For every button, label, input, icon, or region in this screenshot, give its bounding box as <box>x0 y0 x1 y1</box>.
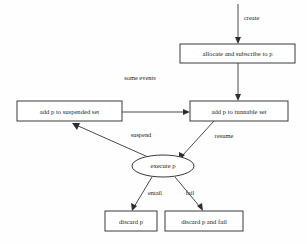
node-allocate-and-subscribe[interactable]: allocate and subscribe to p <box>180 44 295 63</box>
node-execute-p[interactable]: execute p <box>132 155 194 177</box>
node-add-p-to-runnable-set[interactable]: add p to runnable set <box>190 101 288 121</box>
edge-resume <box>179 121 214 160</box>
node-discard-p-label: discard p <box>119 218 144 225</box>
edge-label-suspend: suspend <box>131 131 152 138</box>
node-discard-p-and-fail-label: discard p and fail <box>181 218 227 225</box>
edge-label-entail: entail <box>148 189 162 196</box>
edge-label-resume: resume <box>215 132 234 139</box>
edge-label-fail: fail <box>186 189 195 196</box>
node-add-p-to-runnable-set-label: add p to runnable set <box>212 108 267 115</box>
edge-suspend-line <box>76 125 148 157</box>
node-discard-p-and-fail[interactable]: discard p and fail <box>165 211 243 231</box>
node-add-p-to-suspended-set[interactable]: add p to suspended set <box>17 101 122 121</box>
edge-create-arrowhead <box>235 37 241 44</box>
node-discard-p[interactable]: discard p <box>105 211 157 231</box>
edge-resume-line <box>182 121 214 156</box>
edge-allocate-to-runnable <box>235 63 241 101</box>
node-add-p-to-suspended-set-label: add p to suspended set <box>40 108 100 115</box>
edge-some-events-arrowhead <box>183 109 190 115</box>
diagram-svg: allocate and subscribe to p add p to sus… <box>0 0 307 244</box>
node-execute-p-label: execute p <box>150 162 176 169</box>
edge-some-events <box>122 109 190 115</box>
state-diagram-canvas: allocate and subscribe to p add p to sus… <box>0 0 307 244</box>
edge-allocate-to-runnable-arrowhead <box>235 94 241 101</box>
edge-suspend <box>72 123 148 157</box>
edge-label-create: create <box>244 14 259 21</box>
edge-label-some-events: some events <box>124 74 156 81</box>
node-allocate-and-subscribe-label: allocate and subscribe to p <box>203 50 274 57</box>
edge-create <box>235 4 241 44</box>
